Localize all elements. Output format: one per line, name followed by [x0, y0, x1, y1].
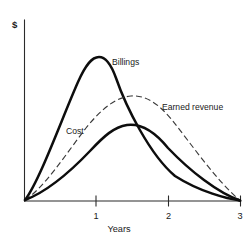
- series-label-cost: Cost: [66, 126, 84, 136]
- x-tick-label-3: 3: [237, 211, 242, 221]
- series-path-billings: [25, 57, 240, 201]
- series-path-cost: [25, 125, 240, 201]
- x-tick-label-1: 1: [93, 211, 98, 221]
- y-axis-title: $: [12, 19, 18, 30]
- x-axis-title: Years: [107, 224, 131, 234]
- x-tick-label-2: 2: [166, 211, 171, 221]
- chart-figure: 1 2 3 Years $ Billings Earned revenue Co…: [0, 0, 250, 238]
- chart-canvas: 1 2 3 Years $ Billings Earned revenue Co…: [0, 0, 250, 238]
- series-label-billings: Billings: [112, 57, 139, 67]
- series-label-earned-revenue: Earned revenue: [162, 102, 223, 112]
